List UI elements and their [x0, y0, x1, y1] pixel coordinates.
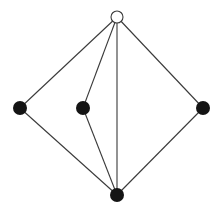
hasse-diagram	[0, 0, 221, 212]
nodes-group	[13, 11, 210, 202]
node-top	[111, 11, 123, 23]
edge-top-right	[117, 17, 203, 108]
edge-top-mid-left	[83, 17, 117, 108]
edge-mid-left-bottom	[83, 108, 117, 195]
node-left	[13, 101, 27, 115]
edges-group	[20, 17, 203, 195]
node-mid-left	[76, 101, 90, 115]
node-right	[196, 101, 210, 115]
edge-left-bottom	[20, 108, 117, 195]
edge-right-bottom	[117, 108, 203, 195]
node-bottom	[110, 188, 124, 202]
edge-top-left	[20, 17, 117, 108]
